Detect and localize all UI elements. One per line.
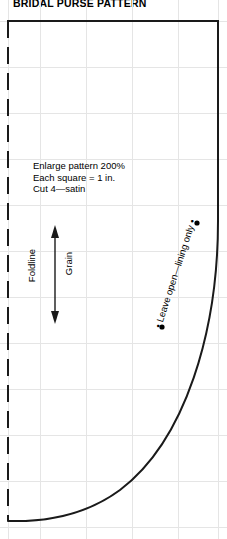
grain-arrow bbox=[51, 225, 59, 324]
leave-open-markers bbox=[159, 220, 199, 329]
pattern-outline bbox=[0, 0, 227, 539]
pattern-curved-edge bbox=[8, 221, 218, 521]
pattern-sheet: BRIDAL PURSE PATTERN bbox=[0, 0, 227, 539]
